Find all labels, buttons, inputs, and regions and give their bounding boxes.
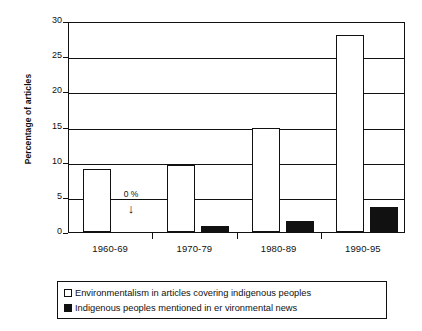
x-tick-label: 1970-79 (149, 243, 239, 254)
plot-area: 0 %↓ (68, 22, 405, 233)
y-tick-label: 30 (34, 16, 62, 25)
bar-filled (201, 226, 229, 232)
legend-item-label: Environmentalism in articles covering in… (75, 288, 311, 298)
bar-open (252, 128, 280, 232)
open-square-swatch-icon (64, 289, 72, 297)
y-axis-title: Percentage of articles (23, 39, 33, 199)
legend-item-label: Indigenous peoples mentioned in er viron… (75, 303, 297, 313)
zero-percent-annotation: 0 % (111, 189, 151, 199)
x-tick-label: 1990-95 (318, 243, 408, 254)
bar-open (336, 35, 364, 232)
y-tick-label: 10 (34, 157, 62, 166)
y-tick-label: 0 (34, 227, 62, 236)
legend-item: Indigenous peoples mentioned in er viron… (64, 300, 386, 315)
bar-filled (370, 207, 398, 232)
bar-chart-figure: Percentage of articles 051015202530 0 %↓… (0, 0, 422, 331)
y-tick-label: 5 (34, 192, 62, 201)
x-tick-mark (321, 232, 322, 239)
bar-filled (286, 221, 314, 232)
chart-legend: Environmentalism in articles covering in… (57, 281, 387, 319)
down-arrow-icon: ↓ (124, 202, 138, 215)
y-tick-mark (63, 233, 68, 234)
x-tick-mark (152, 232, 153, 239)
bar-open (83, 169, 111, 232)
legend-item: Environmentalism in articles covering in… (64, 285, 386, 300)
y-tick-label: 15 (34, 122, 62, 131)
x-tick-label: 1980-89 (234, 243, 324, 254)
x-tick-mark (237, 232, 238, 239)
y-tick-label: 20 (34, 86, 62, 95)
y-tick-label: 25 (34, 51, 62, 60)
bar-open (167, 165, 195, 232)
x-tick-label: 1960-69 (65, 243, 155, 254)
filled-square-swatch-icon (64, 304, 72, 312)
